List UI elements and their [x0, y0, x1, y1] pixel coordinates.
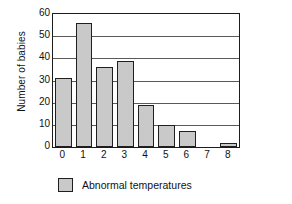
legend: Abnormal temperatures — [58, 178, 192, 192]
y-axis-title: Number of babies — [16, 7, 27, 137]
y-axis-tick-labels: 0102030405060 — [26, 13, 50, 146]
x-tick-6: 6 — [176, 149, 197, 161]
y-tick-10: 10 — [26, 119, 50, 129]
y-tick-40: 40 — [26, 52, 50, 62]
x-tick-4: 4 — [135, 149, 156, 161]
bar-chart-figure: Number of babies 0102030405060 012345678… — [0, 0, 292, 204]
legend-swatch-abnormal-temperatures — [58, 178, 73, 192]
bar-6 — [179, 131, 196, 147]
bar-4 — [138, 105, 155, 147]
bar-8 — [220, 143, 237, 147]
y-tick-50: 50 — [26, 30, 50, 40]
x-tick-5: 5 — [155, 149, 176, 161]
plot-area — [52, 13, 240, 148]
x-tick-8: 8 — [217, 149, 238, 161]
bars-layer — [53, 14, 239, 147]
bar-5 — [158, 125, 175, 147]
x-axis-tick-labels: 012345678 — [52, 149, 238, 163]
y-tick-20: 20 — [26, 97, 50, 107]
x-tick-7: 7 — [197, 149, 218, 161]
x-tick-2: 2 — [93, 149, 114, 161]
bar-2 — [96, 67, 113, 147]
x-tick-0: 0 — [52, 149, 73, 161]
y-tick-30: 30 — [26, 75, 50, 85]
bar-0 — [55, 78, 72, 147]
y-tick-0: 0 — [26, 141, 50, 151]
x-tick-3: 3 — [114, 149, 135, 161]
bar-3 — [117, 61, 134, 147]
bar-1 — [76, 23, 93, 147]
legend-label: Abnormal temperatures — [82, 179, 192, 191]
x-tick-1: 1 — [73, 149, 94, 161]
y-tick-60: 60 — [26, 8, 50, 18]
